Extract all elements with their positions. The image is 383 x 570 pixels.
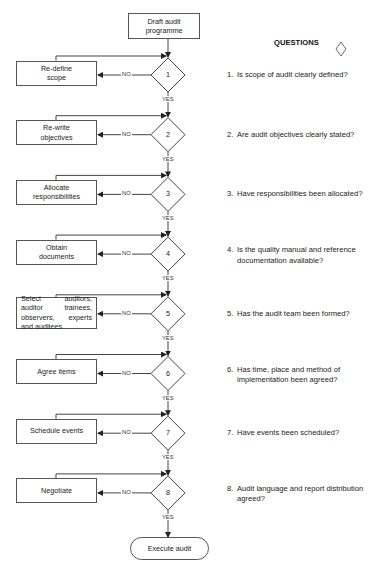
no-label: NO (121, 190, 132, 196)
question-text: Has the audit team been formed? (237, 309, 377, 320)
question-2: 2.Are audit objectives clearly stated? (227, 130, 377, 141)
yes-label: YES (161, 454, 175, 460)
end-terminal-execute-audit: Execute audit (130, 537, 209, 560)
question-number: 4. (227, 245, 233, 256)
action-box-label: Obtain documents (39, 243, 74, 262)
yes-label: YES (161, 215, 175, 221)
question-4: 4.Is the quality manual and reference do… (227, 245, 377, 266)
question-text: Have events been scheduled? (237, 428, 377, 439)
action-box-4: Obtain documents (16, 240, 97, 265)
action-box-label: Allocate responsibilities (33, 183, 80, 202)
yes-label: YES (161, 96, 175, 102)
question-number: 7. (227, 428, 233, 439)
question-3: 3.Have responsibilities been allocated? (227, 189, 377, 200)
yes-label: YES (161, 156, 175, 162)
decision-number: 2 (158, 130, 178, 139)
question-number: 3. (227, 189, 233, 200)
action-box-1: Re-define scope (16, 61, 97, 86)
no-label: NO (121, 370, 132, 376)
decision-number: 3 (158, 189, 178, 198)
question-number: 1. (227, 70, 233, 81)
questions-header-label: QUESTIONS (274, 38, 319, 47)
action-box-3: Allocate responsibilities (16, 180, 97, 205)
question-5: 5.Has the audit team been formed? (227, 309, 377, 320)
decision-number: 5 (158, 309, 178, 318)
action-box-label: Schedule events (30, 426, 83, 436)
question-7: 7.Have events been scheduled? (227, 428, 377, 439)
action-box-5: Select auditors, auditor trainees, obser… (16, 297, 97, 329)
decision-number: 6 (158, 369, 178, 378)
question-text: Have responsibilities been allocated? (237, 189, 377, 200)
yes-label: YES (161, 395, 175, 401)
action-box-label: Re-write objectives (41, 123, 73, 142)
question-text: Are audit objectives clearly stated? (237, 130, 377, 141)
question-6: 6.Has time, place and method of implemen… (227, 365, 377, 386)
decision-number: 4 (158, 249, 178, 258)
question-number: 5. (227, 309, 233, 320)
action-box-6: Agree items (16, 359, 97, 384)
question-number: 2. (227, 130, 233, 141)
yes-label: YES (161, 275, 175, 281)
questions-header: QUESTIONS (274, 38, 319, 47)
question-text: Is the quality manual and reference docu… (237, 245, 377, 266)
question-text: Audit language and report distribution a… (237, 484, 377, 505)
no-label: NO (121, 489, 132, 495)
action-box-2: Re-write objectives (16, 120, 97, 145)
action-box-label: Agree items (37, 367, 75, 377)
question-text: Has time, place and method of implementa… (237, 365, 377, 386)
no-label: NO (121, 131, 132, 137)
action-box-label: Negotiate (41, 486, 72, 496)
decision-number: 7 (158, 428, 178, 437)
diamond-icon (336, 42, 346, 56)
question-number: 6. (227, 365, 233, 376)
question-1: 1.Is scope of audit clearly defined? (227, 70, 377, 81)
no-label: NO (121, 429, 132, 435)
no-label: NO (121, 310, 132, 316)
start-box-draft-audit-programme: Draft audit programme (128, 13, 200, 39)
yes-label: YES (161, 335, 175, 341)
no-label: NO (121, 71, 132, 77)
question-8: 8.Audit language and report distribution… (227, 484, 377, 505)
action-box-label: Select auditors, auditor trainees, obser… (21, 294, 92, 332)
yes-label: YES (161, 514, 175, 520)
question-text: Is scope of audit clearly defined? (237, 70, 377, 81)
action-box-label: Re-define scope (41, 64, 72, 83)
question-number: 8. (227, 484, 233, 495)
decision-number: 1 (158, 70, 178, 79)
action-box-8: Negotiate (16, 478, 97, 503)
decision-number: 8 (158, 488, 178, 497)
no-label: NO (121, 250, 132, 256)
action-box-7: Schedule events (16, 419, 97, 444)
